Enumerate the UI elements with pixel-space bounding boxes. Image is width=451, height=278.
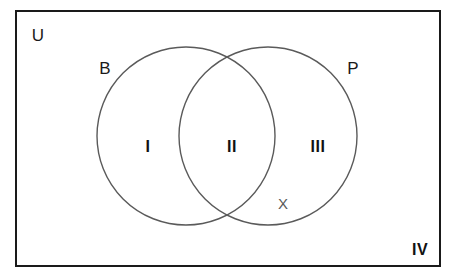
set-label-p: P xyxy=(347,60,358,77)
region-label-iv: IV xyxy=(412,242,428,258)
region-label-ii: II xyxy=(227,139,237,155)
venn-diagram-canvas: U B P I II III IV X xyxy=(0,0,451,278)
set-label-b: B xyxy=(99,60,110,77)
element-marker-x: X xyxy=(278,196,288,211)
region-label-i: I xyxy=(146,139,151,155)
region-label-iii: III xyxy=(311,139,326,155)
venn-diagram-graphic xyxy=(0,0,451,278)
universal-set-label: U xyxy=(32,27,44,44)
